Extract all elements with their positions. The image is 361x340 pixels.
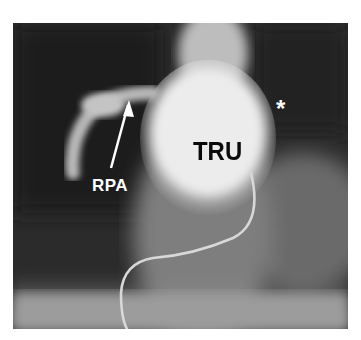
tru-label: TRU xyxy=(193,138,242,164)
rpa-label: RPA xyxy=(92,177,128,194)
angiogram-image: RPA TRU * xyxy=(13,23,348,329)
radiograph-render xyxy=(13,23,348,329)
asterisk-marker: * xyxy=(276,97,285,121)
